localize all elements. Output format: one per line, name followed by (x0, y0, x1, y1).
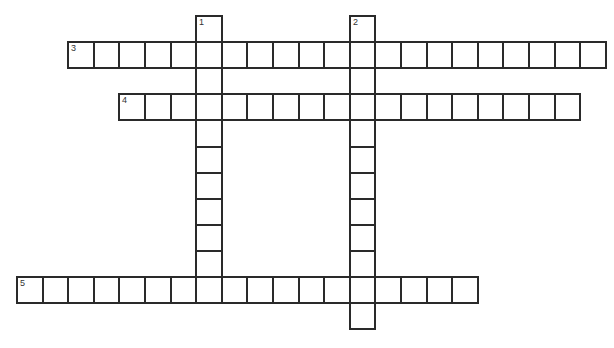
crossword-cell[interactable] (272, 276, 300, 304)
crossword-cell[interactable] (272, 93, 300, 121)
crossword-cell[interactable] (246, 41, 274, 69)
crossword-cell[interactable] (502, 41, 530, 69)
crossword-cell[interactable] (246, 276, 274, 304)
crossword-cell[interactable] (374, 276, 402, 304)
crossword-cell[interactable] (170, 41, 197, 69)
crossword-cell[interactable] (400, 93, 428, 121)
crossword-cell[interactable] (554, 93, 581, 121)
crossword-cell[interactable] (246, 93, 274, 121)
crossword-cell[interactable] (93, 41, 120, 69)
crossword-cell[interactable] (93, 276, 120, 304)
crossword-cell[interactable] (144, 276, 172, 304)
crossword-cell[interactable] (451, 276, 479, 304)
crossword-cell[interactable] (195, 146, 223, 174)
crossword-cell[interactable] (323, 93, 351, 121)
crossword-cell[interactable] (349, 93, 376, 121)
crossword-cell[interactable] (400, 276, 428, 304)
crossword-cell[interactable] (451, 41, 479, 69)
crossword-cell[interactable] (349, 276, 376, 304)
crossword-cell[interactable] (195, 67, 223, 95)
crossword-cell[interactable] (67, 276, 95, 304)
clue-number: 2 (353, 17, 358, 27)
crossword-cell[interactable] (528, 41, 556, 69)
crossword-cell[interactable] (426, 41, 453, 69)
crossword-cell[interactable] (477, 41, 504, 69)
crossword-cell[interactable] (426, 93, 453, 121)
clue-number: 1 (199, 17, 204, 27)
clue-number: 4 (122, 95, 127, 105)
crossword-cell[interactable] (195, 119, 223, 148)
crossword-cell[interactable] (298, 93, 325, 121)
crossword-cell[interactable] (170, 276, 197, 304)
crossword-cell[interactable] (349, 302, 376, 330)
crossword-cell[interactable] (579, 41, 607, 69)
crossword-cell[interactable] (221, 41, 248, 69)
crossword-cell[interactable] (195, 93, 223, 121)
crossword-grid: 12345 (0, 0, 614, 348)
crossword-cell[interactable] (349, 198, 376, 226)
crossword-cell[interactable] (170, 93, 197, 121)
crossword-cell[interactable] (298, 276, 325, 304)
crossword-cell[interactable]: 5 (16, 276, 44, 304)
crossword-cell[interactable]: 4 (118, 93, 146, 121)
crossword-cell[interactable] (349, 146, 376, 174)
crossword-cell[interactable] (349, 224, 376, 252)
crossword-cell[interactable] (195, 198, 223, 226)
crossword-cell[interactable] (298, 41, 325, 69)
crossword-cell[interactable] (374, 93, 402, 121)
crossword-cell[interactable]: 3 (67, 41, 95, 69)
crossword-cell[interactable] (554, 41, 581, 69)
crossword-cell[interactable] (349, 172, 376, 200)
crossword-cell[interactable] (400, 41, 428, 69)
crossword-cell[interactable] (502, 93, 530, 121)
crossword-cell[interactable] (477, 93, 504, 121)
crossword-cell[interactable] (323, 276, 351, 304)
crossword-cell[interactable] (195, 172, 223, 200)
crossword-cell[interactable] (349, 119, 376, 148)
crossword-cell[interactable] (144, 41, 172, 69)
crossword-cell[interactable] (118, 276, 146, 304)
crossword-cell[interactable] (42, 276, 69, 304)
crossword-cell[interactable] (349, 250, 376, 278)
crossword-cell[interactable]: 1 (195, 15, 223, 43)
crossword-cell[interactable] (323, 41, 351, 69)
crossword-cell[interactable]: 2 (349, 15, 376, 43)
crossword-cell[interactable] (144, 93, 172, 121)
crossword-cell[interactable] (426, 276, 453, 304)
crossword-cell[interactable] (451, 93, 479, 121)
crossword-cell[interactable] (118, 41, 146, 69)
crossword-cell[interactable] (374, 41, 402, 69)
crossword-cell[interactable] (528, 93, 556, 121)
clue-number: 3 (71, 43, 76, 53)
crossword-cell[interactable] (272, 41, 300, 69)
crossword-cell[interactable] (195, 224, 223, 252)
crossword-cell[interactable] (349, 41, 376, 69)
crossword-cell[interactable] (221, 93, 248, 121)
crossword-cell[interactable] (195, 41, 223, 69)
crossword-cell[interactable] (221, 276, 248, 304)
crossword-cell[interactable] (195, 276, 223, 304)
clue-number: 5 (20, 278, 25, 288)
crossword-cell[interactable] (195, 250, 223, 278)
crossword-cell[interactable] (349, 67, 376, 95)
